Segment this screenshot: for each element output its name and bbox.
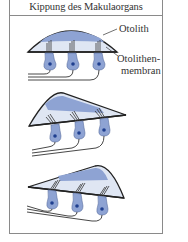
panel-tilted-1 (29, 93, 126, 156)
membrane-label-line2: membran (121, 65, 161, 76)
membrane-label-line1: Otolithen- (117, 53, 161, 64)
macula-diagram: Otolith Otolithen- membran (0, 0, 188, 242)
panel-tilted-2 (27, 166, 124, 222)
otolith-band (40, 31, 104, 42)
panel-upright (28, 29, 118, 80)
otolith-label: Otolith (119, 23, 150, 34)
